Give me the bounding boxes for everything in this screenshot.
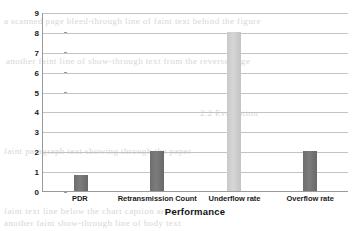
x-axis-category-labels: PDRRetransmission CountUnderflow rateOve… [42, 194, 348, 203]
bar-chart-figure: Approximation time (m/sec) 0123456789 PD… [0, 0, 361, 231]
plot-area [42, 13, 348, 192]
bar-slot [272, 13, 348, 191]
y-axis-tick-label: 1 [25, 167, 39, 178]
y-axis-tick-label: 8 [25, 28, 39, 39]
x-axis-category-label: PDR [42, 194, 118, 203]
y-axis-tick-label: 7 [25, 48, 39, 59]
bar [74, 175, 88, 191]
y-axis-tick-label: 9 [25, 8, 39, 19]
y-axis-tick-labels: 0123456789 [25, 9, 39, 197]
x-axis-title: Performance [42, 206, 348, 217]
y-axis-tick-label: 0 [25, 187, 39, 198]
x-axis-category-label: Retransmission Count [118, 194, 197, 203]
x-axis-category-label: Underflow rate [197, 194, 273, 203]
bar [227, 32, 241, 191]
y-axis-tick-label: 4 [25, 107, 39, 118]
y-axis-tick-label: 6 [25, 68, 39, 79]
y-axis-tick-label: 3 [25, 127, 39, 138]
bar-slot [196, 13, 272, 191]
bar-slot [43, 13, 119, 191]
bar [303, 151, 317, 191]
y-axis-tick-label: 5 [25, 88, 39, 99]
x-axis-category-label: Overflow rate [272, 194, 348, 203]
y-axis-tick-label: 2 [25, 147, 39, 158]
bar-series [43, 13, 348, 191]
bar-slot [119, 13, 195, 191]
bar [150, 151, 164, 191]
